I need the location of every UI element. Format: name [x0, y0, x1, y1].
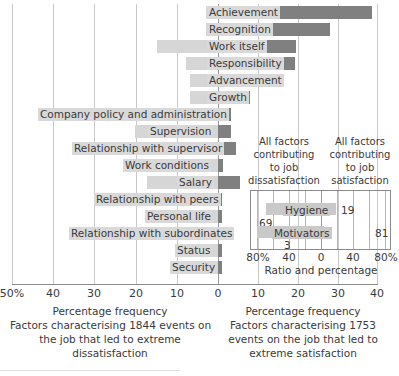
- xtick-right-10: 10: [238, 288, 278, 300]
- row-label-personal-life: Personal life: [145, 210, 213, 223]
- row-label-achievement: Achievement: [207, 6, 280, 19]
- row-label-work-conditions: Work conditions: [123, 159, 211, 172]
- bar-right-status: [218, 244, 222, 257]
- caption-left-line4: dissatisfaction: [10, 347, 210, 361]
- caption-left-line2: Factors characterising 1844 events on: [10, 319, 210, 333]
- inset-gridline-left-80: [257, 191, 258, 249]
- inset-heading-left-line4: dissatisfaction: [244, 174, 324, 187]
- inset-gridline-left-60: [273, 191, 274, 249]
- inset-heading-left-line3: to job: [248, 161, 320, 174]
- axis-baseline: [12, 284, 378, 285]
- inset-gridline-right-40: [353, 191, 354, 249]
- row-label-recognition: Recognition: [207, 23, 273, 36]
- row-label-status: Status: [175, 244, 212, 257]
- inset-gridline-left-20: [305, 191, 306, 249]
- gridline-left-40: [53, 4, 54, 284]
- xtick-zero: 0: [198, 288, 238, 300]
- inset-heading-left-line2: contributing: [248, 148, 320, 161]
- xtick-right-20: 20: [278, 288, 318, 300]
- bar-right-work-conditions: [218, 159, 223, 172]
- xtick-left-20: 20: [116, 288, 156, 300]
- inset-label-motivators: Motivators: [272, 227, 332, 239]
- caption-left-line3: the job that led to extreme: [10, 333, 210, 347]
- bar-right-supervision: [218, 125, 231, 138]
- inset-heading-right-line1: All factors: [324, 135, 396, 148]
- inset-xtick-zero: 0: [307, 251, 335, 263]
- row-label-advancement: Advancement: [207, 74, 284, 87]
- inset-xtick-right-80: 80%: [368, 251, 399, 263]
- inset-value-motivators-right: 3: [284, 239, 291, 251]
- inset-heading-right-line4: satisfaction: [322, 174, 398, 187]
- bar-right-security: [218, 261, 222, 274]
- row-label-supervision: Supervision: [148, 125, 213, 138]
- page-bottom-rule: [0, 370, 180, 371]
- row-label-growth: Growth: [207, 91, 249, 104]
- xtick-left-50: 50%: [0, 288, 32, 300]
- bar-right-salary: [218, 176, 240, 189]
- inset-xtick-left-40: 40: [274, 251, 304, 263]
- xtick-left-40: 40: [33, 288, 73, 300]
- caption-right-line4: extreme satisfaction: [208, 347, 398, 361]
- inset-value-motivators-left: 81: [375, 227, 388, 239]
- row-label-relationship-supervisor: Relationship with supervisor: [72, 142, 224, 155]
- inset-gridline-right-20: [337, 191, 338, 249]
- inset-xtick-right-40: 40: [339, 251, 367, 263]
- row-label-work-itself: Work itself: [207, 40, 267, 53]
- inset-gridline-right-80: [385, 191, 386, 249]
- bar-right-personal-life: [218, 210, 222, 223]
- xtick-left-10: 10: [157, 288, 197, 300]
- gridline-left-50: [12, 4, 13, 284]
- row-label-responsibility: Responsibility: [207, 57, 284, 70]
- row-label-salary: Salary: [177, 176, 214, 189]
- inset-gridline-right-60: [369, 191, 370, 249]
- inset-gridline-zero: [321, 191, 322, 249]
- inset-heading-right-line2: contributing: [324, 148, 396, 161]
- row-label-company-policy: Company policy and administration: [38, 108, 229, 121]
- caption-right-line1: Percentage frequency: [208, 305, 398, 319]
- inset-heading-left-line1: All factors: [248, 135, 320, 148]
- xtick-right-30: 30: [318, 288, 358, 300]
- inset-axis-label: Ratio and percentage: [256, 264, 386, 278]
- row-label-relationship-subordinates: Relationship with subordinates: [69, 227, 234, 240]
- inset-xtick-left-80: 80%: [240, 251, 276, 263]
- inset-label-hygiene: Hygiene: [283, 204, 330, 216]
- caption-left-line1: Percentage frequency: [10, 305, 210, 319]
- row-label-relationship-peers: Relationship with peers: [94, 193, 221, 206]
- caption-right-line3: events on the job that led to: [208, 333, 398, 347]
- inset-value-hygiene-right: 19: [341, 204, 354, 216]
- xtick-left-30: 30: [74, 288, 114, 300]
- inset-heading-right-line3: to job: [324, 161, 396, 174]
- xtick-right-40: 40: [357, 288, 397, 300]
- herzberg-two-factor-chart: Achievement Recognition Work itself Resp…: [0, 0, 399, 376]
- caption-right-line2: Factors characterising 1753: [208, 319, 398, 333]
- row-label-security: Security: [170, 261, 217, 274]
